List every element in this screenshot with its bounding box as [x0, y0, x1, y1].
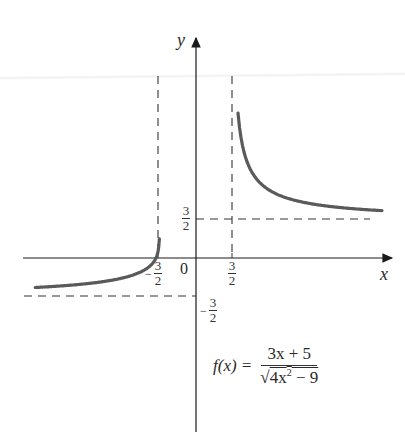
radicand-rest: − 9 — [292, 368, 319, 387]
numerator: 3 — [155, 260, 162, 272]
curve-left-branch — [35, 239, 159, 288]
x-tick-three-halves: 3 2 — [228, 260, 236, 287]
curve-right-branch — [238, 113, 382, 211]
denominator: 2 — [155, 275, 162, 287]
numerator: 3 — [183, 205, 190, 217]
radical-sign: √ — [260, 368, 269, 387]
y-tick-neg-sign: − — [200, 304, 207, 319]
plot-area — [0, 0, 405, 447]
radicand-base: 4x — [270, 368, 287, 387]
formula-denominator: √4x2 − 9 — [260, 366, 318, 388]
y-tick-neg-three-halves: 3 2 — [209, 297, 217, 324]
function-formula: f(x) = 3x + 5 √4x2 − 9 — [213, 344, 318, 388]
x-tick-neg-three-halves: 3 2 — [154, 260, 162, 287]
x-tick-neg-sign: − — [145, 267, 152, 282]
numerator: 3 — [210, 297, 217, 309]
formula-fraction: 3x + 5 √4x2 − 9 — [260, 344, 318, 388]
numerator: 3 — [229, 260, 236, 272]
origin-label: 0 — [180, 260, 188, 278]
radicand: 4x2 − 9 — [270, 368, 319, 387]
x-axis-label: x — [380, 264, 388, 285]
denominator: 2 — [210, 312, 217, 324]
asymptote-lines — [24, 76, 370, 296]
formula-numerator: 3x + 5 — [261, 344, 317, 366]
y-tick-three-halves: 3 2 — [182, 205, 190, 232]
formula-lhs: f(x) = — [213, 356, 252, 376]
y-axis-label: y — [177, 30, 185, 51]
denominator: 2 — [183, 220, 190, 232]
denominator: 2 — [229, 275, 236, 287]
